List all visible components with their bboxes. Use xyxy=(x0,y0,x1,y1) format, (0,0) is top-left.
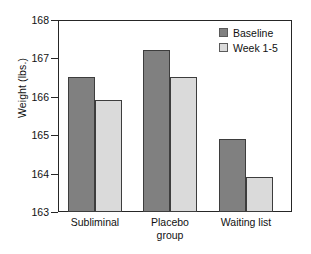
legend-label: Baseline xyxy=(233,27,273,39)
legend: Baseline Week 1-5 xyxy=(219,25,278,55)
y-tick-label: 166 xyxy=(9,91,49,103)
legend-item-baseline: Baseline xyxy=(219,25,278,40)
legend-swatch-icon xyxy=(219,28,228,37)
y-tick-label: 168 xyxy=(9,14,49,26)
legend-label: Week 1-5 xyxy=(233,42,278,54)
y-tick-mark xyxy=(51,58,58,59)
bar-waiting-week xyxy=(246,177,273,212)
y-tick-mark xyxy=(51,97,58,98)
x-tick-label-waiting: Waiting list xyxy=(191,216,301,229)
bar-waiting-baseline xyxy=(219,139,246,212)
y-tick-mark xyxy=(51,20,58,21)
bar-placebo-baseline xyxy=(143,50,170,212)
bar-chart: Weight (lbs.) 168 167 166 165 164 163 Su… xyxy=(0,0,311,254)
x-tick-label-line: Waiting list xyxy=(191,216,301,229)
bar-subliminal-week xyxy=(95,100,122,212)
y-tick-mark xyxy=(51,135,58,136)
y-tick-mark xyxy=(51,212,58,213)
bar-subliminal-baseline xyxy=(68,77,95,212)
x-tick-label-line: group xyxy=(115,229,225,242)
y-tick-label: 167 xyxy=(9,52,49,64)
y-tick-label: 164 xyxy=(9,168,49,180)
bar-placebo-week xyxy=(170,77,197,212)
y-tick-label: 165 xyxy=(9,129,49,141)
legend-item-week: Week 1-5 xyxy=(219,40,278,55)
legend-swatch-icon xyxy=(219,43,228,52)
y-tick-mark xyxy=(51,174,58,175)
